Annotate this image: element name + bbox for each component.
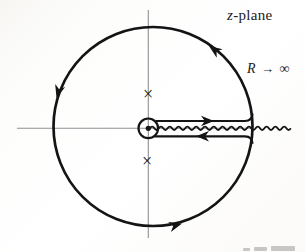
pole-marker-lower: ×	[142, 152, 152, 170]
right-arrow-glyph: →	[259, 61, 276, 76]
keyhole-contour-figure: z-plane R → ∞ × ×	[0, 0, 305, 252]
branch-cut-wavy-line	[150, 127, 291, 130]
pole-marker-upper: ×	[143, 85, 153, 103]
radius-label: R → ∞	[247, 61, 290, 77]
plane-label: z-plane	[227, 7, 272, 24]
contour-diagram	[0, 0, 305, 252]
infinity-glyph: ∞	[280, 61, 290, 76]
plane-suffix: -plane	[233, 7, 272, 23]
radius-variable: R	[247, 61, 256, 76]
cropped-caption-fragment	[254, 247, 267, 251]
cropped-caption-fragment	[271, 246, 295, 251]
cropped-caption-fragment	[243, 248, 250, 251]
